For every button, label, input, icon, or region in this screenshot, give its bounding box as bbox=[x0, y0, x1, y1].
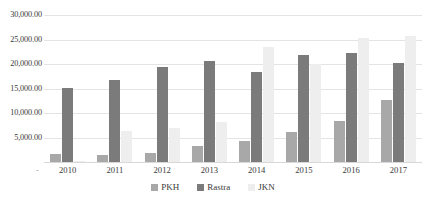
legend-item-pkh[interactable]: PKH bbox=[151, 183, 179, 192]
bar-pkh-2015 bbox=[286, 132, 297, 162]
bar-chart: 30,000.0025,000.0020,000.0015,000.0010,0… bbox=[0, 0, 426, 201]
x-axis-tick-label: 2011 bbox=[91, 164, 138, 177]
bar-pkh-2017 bbox=[381, 100, 392, 162]
y-axis-tick-label: 10,000.00 bbox=[10, 109, 42, 117]
bar-group bbox=[44, 15, 91, 162]
y-axis-tick-label: 15,000.00 bbox=[10, 84, 42, 92]
bar-jkn-2013 bbox=[216, 122, 227, 162]
bar-group bbox=[139, 15, 186, 162]
bar-group bbox=[328, 15, 375, 162]
chart-legend: PKHRastraJKN bbox=[0, 180, 426, 194]
bar-group bbox=[91, 15, 138, 162]
y-axis-tick-label: 30,000.00 bbox=[10, 11, 42, 19]
bar-group bbox=[375, 15, 422, 162]
y-axis-origin-marker: - bbox=[36, 164, 39, 177]
legend-item-jkn[interactable]: JKN bbox=[248, 183, 275, 192]
bar-groups bbox=[44, 15, 422, 162]
x-axis-tick-label: 2013 bbox=[186, 164, 233, 177]
bar-group bbox=[186, 15, 233, 162]
x-axis-tick-label: 2010 bbox=[44, 164, 91, 177]
x-axis-tick-label: 2014 bbox=[233, 164, 280, 177]
bar-jkn-2011 bbox=[121, 131, 132, 162]
bar-pkh-2014 bbox=[239, 141, 250, 162]
bar-rastra-2017 bbox=[393, 63, 404, 162]
bar-rastra-2011 bbox=[109, 80, 120, 162]
bar-group bbox=[233, 15, 280, 162]
legend-swatch-icon bbox=[197, 184, 204, 191]
bar-rastra-2013 bbox=[204, 61, 215, 162]
x-axis: 20102011201220132014201520162017 bbox=[44, 164, 422, 177]
y-axis-tick-label: 5,000.00 bbox=[14, 133, 42, 141]
legend-item-label: PKH bbox=[161, 183, 179, 192]
bar-rastra-2014 bbox=[251, 72, 262, 162]
bar-rastra-2012 bbox=[157, 67, 168, 162]
y-axis-tick-label: 25,000.00 bbox=[10, 35, 42, 43]
legend-item-rastra[interactable]: Rastra bbox=[197, 183, 230, 192]
bar-rastra-2015 bbox=[298, 55, 309, 162]
bar-pkh-2016 bbox=[334, 121, 345, 162]
bar-rastra-2010 bbox=[62, 88, 73, 162]
x-axis-tick-label: 2016 bbox=[328, 164, 375, 177]
bar-pkh-2013 bbox=[192, 146, 203, 162]
bar-pkh-2012 bbox=[145, 153, 156, 162]
bar-pkh-2010 bbox=[50, 154, 61, 162]
x-axis-tick-label: 2015 bbox=[280, 164, 327, 177]
bar-pkh-2011 bbox=[97, 155, 108, 162]
bar-jkn-2014 bbox=[263, 47, 274, 162]
bar-jkn-2012 bbox=[169, 128, 180, 162]
x-axis-tick-label: 2012 bbox=[139, 164, 186, 177]
legend-item-label: Rastra bbox=[207, 183, 230, 192]
legend-item-label: JKN bbox=[258, 183, 275, 192]
bar-jkn-2015 bbox=[310, 64, 321, 162]
x-axis-tick-label: 2017 bbox=[375, 164, 422, 177]
bar-jkn-2017 bbox=[405, 36, 416, 162]
axis-baseline bbox=[44, 162, 422, 163]
y-axis: 30,000.0025,000.0020,000.0015,000.0010,0… bbox=[0, 15, 42, 162]
bar-jkn-2010 bbox=[74, 161, 85, 162]
legend-swatch-icon bbox=[151, 184, 158, 191]
y-axis-tick-label: 20,000.00 bbox=[10, 60, 42, 68]
bar-jkn-2016 bbox=[358, 38, 369, 162]
bar-rastra-2016 bbox=[346, 53, 357, 162]
bar-group bbox=[280, 15, 327, 162]
plot-area bbox=[44, 15, 422, 162]
legend-swatch-icon bbox=[248, 184, 255, 191]
